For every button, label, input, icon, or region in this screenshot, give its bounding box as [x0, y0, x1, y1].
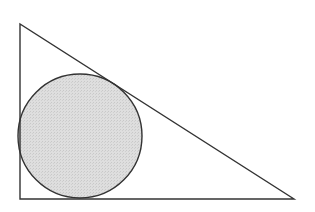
inscribed-circle	[18, 74, 142, 198]
incircle-diagram	[0, 0, 315, 212]
